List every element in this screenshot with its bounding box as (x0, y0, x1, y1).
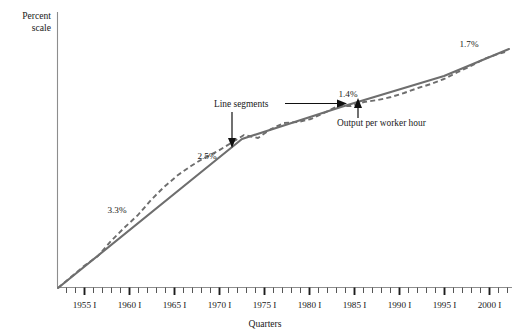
series-output-per-worker-hour (58, 52, 505, 288)
rate-label-3-3: 3.3% (107, 205, 126, 215)
x-tick-label: 1970 I (208, 300, 232, 310)
x-tick-label: 1990 I (388, 300, 412, 310)
chart-figure: 1955 I 1960 I 1965 I 1970 I 1975 I 1980 … (0, 0, 531, 335)
annotation-output-per-worker-hour: Output per worker hour (337, 98, 427, 128)
x-tick-label: 1975 I (253, 300, 277, 310)
series-line-segments (58, 49, 509, 288)
x-tick-label: 1960 I (118, 300, 142, 310)
x-tick-label: 2000 I (478, 300, 502, 310)
y-axis-label-line2: scale (32, 22, 51, 33)
x-axis-minor-ticks (67, 288, 508, 294)
annotation-output-label: Output per worker hour (337, 118, 427, 128)
x-tick-label: 1955 I (73, 300, 97, 310)
x-axis-major-ticks (85, 288, 490, 296)
annotation-line-segments: Line segments (214, 99, 347, 148)
rate-label-2-5: 2.5% (197, 151, 216, 161)
x-tick-label: 1980 I (298, 300, 322, 310)
y-axis-label: Percent scale (22, 10, 51, 33)
x-tick-label: 1965 I (163, 300, 187, 310)
rate-label-1-7: 1.7% (459, 39, 478, 49)
x-axis-title: Quarters (248, 318, 281, 329)
x-tick-label: 1985 I (343, 300, 367, 310)
rate-label-1-4: 1.4% (338, 89, 357, 99)
chart-svg: 1955 I 1960 I 1965 I 1970 I 1975 I 1980 … (0, 0, 531, 335)
annotation-line-segments-label: Line segments (214, 99, 269, 109)
y-axis-label-line1: Percent (22, 10, 51, 21)
x-axis-tick-labels: 1955 I 1960 I 1965 I 1970 I 1975 I 1980 … (73, 300, 502, 310)
x-tick-label: 1995 I (433, 300, 457, 310)
